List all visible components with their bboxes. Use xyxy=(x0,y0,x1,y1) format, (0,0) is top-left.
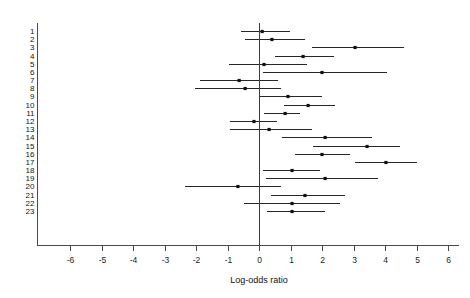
point-estimate-marker xyxy=(262,63,265,66)
point-estimate-marker xyxy=(324,177,327,180)
x-tick-label: 5 xyxy=(415,255,420,265)
confidence-interval-group xyxy=(185,32,417,212)
x-tick-label: -5 xyxy=(99,255,107,265)
point-estimate-marker xyxy=(270,38,273,41)
point-estimate-marker xyxy=(365,145,368,148)
study-row-label: 23 xyxy=(26,207,35,216)
point-estimate-marker xyxy=(324,136,327,139)
point-estimate-marker xyxy=(284,112,287,115)
point-estimate-marker xyxy=(238,79,241,82)
study-row-label: 3 xyxy=(30,43,35,52)
x-tick-label: -3 xyxy=(162,255,170,265)
point-estimate-marker xyxy=(303,194,306,197)
forest-plot-figure: -6-5-4-3-2-10123456 12345678910111213141… xyxy=(0,0,470,298)
x-tick-label: 2 xyxy=(320,255,325,265)
y-label-group: 1234567891011121314151617181920212223 xyxy=(26,27,35,216)
study-row-label: 14 xyxy=(26,133,35,142)
point-estimate-marker xyxy=(320,153,323,156)
x-tick-group: -6-5-4-3-2-10123456 xyxy=(67,246,451,265)
axis-group xyxy=(38,23,460,246)
point-estimate-marker xyxy=(252,120,255,123)
point-estimate-marker xyxy=(286,95,289,98)
x-tick-label: -4 xyxy=(130,255,138,265)
point-estimate-marker xyxy=(302,55,305,58)
point-estimate-marker xyxy=(290,202,293,205)
forest-plot-canvas: -6-5-4-3-2-10123456 12345678910111213141… xyxy=(0,0,470,298)
x-tick-label: -2 xyxy=(193,255,201,265)
point-estimate-marker xyxy=(267,128,270,131)
study-row-label: 9 xyxy=(30,92,35,101)
x-tick-label: -1 xyxy=(225,255,233,265)
x-tick-label: 6 xyxy=(446,255,451,265)
point-estimate-marker xyxy=(244,87,247,90)
point-estimate-marker xyxy=(290,169,293,172)
x-tick-label: 1 xyxy=(289,255,294,265)
point-estimate-marker xyxy=(290,210,293,213)
point-estimate-marker xyxy=(353,46,356,49)
point-estimate-marker xyxy=(307,104,310,107)
x-tick-label: 4 xyxy=(383,255,388,265)
point-estimate-marker xyxy=(261,30,264,33)
point-estimate-marker xyxy=(236,185,239,188)
x-axis-title: Log-odds ratio xyxy=(230,275,288,285)
x-tick-label: 3 xyxy=(352,255,357,265)
point-estimate-marker xyxy=(320,71,323,74)
point-estimate-marker xyxy=(384,161,387,164)
study-row-label: 20 xyxy=(26,182,35,191)
x-tick-label: -6 xyxy=(67,255,75,265)
x-tick-label: 0 xyxy=(257,255,262,265)
